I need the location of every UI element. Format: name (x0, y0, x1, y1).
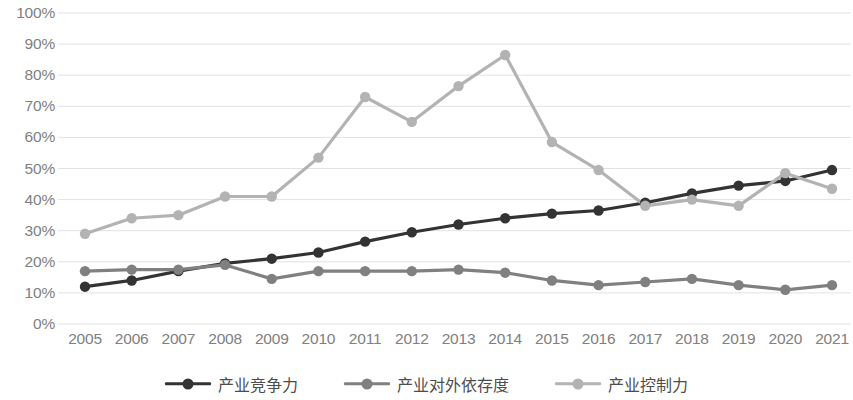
x-tick-label: 2013 (442, 330, 476, 348)
legend-label-series-1: 产业竞争力 (218, 372, 298, 396)
data-point (126, 213, 136, 223)
data-point (640, 201, 650, 211)
data-point (407, 227, 417, 237)
data-point (827, 165, 837, 175)
data-point (360, 92, 370, 102)
x-tick-label: 2020 (768, 330, 802, 348)
legend-swatch-icon-series-2 (344, 377, 390, 391)
data-point (407, 266, 417, 276)
data-point (453, 81, 463, 91)
x-tick-label: 2015 (535, 330, 569, 348)
x-tick-label: 2019 (722, 330, 756, 348)
data-point (313, 247, 323, 257)
data-point (827, 280, 837, 290)
x-tick-label: 2007 (162, 330, 196, 348)
line-chart: 100%90%80%70%60%50%40%30%20%10%0% 200520… (0, 0, 853, 400)
y-tick-label: 60% (3, 128, 55, 146)
data-point (593, 280, 603, 290)
data-point (80, 266, 90, 276)
legend-label-series-3: 产业控制力 (608, 372, 688, 396)
y-tick-label: 100% (3, 4, 55, 22)
data-point (640, 277, 650, 287)
data-point (220, 191, 230, 201)
data-point (733, 280, 743, 290)
data-point (547, 208, 557, 218)
x-tick-label: 2021 (815, 330, 849, 348)
y-tick-label: 90% (3, 35, 55, 53)
gridlines (58, 13, 851, 324)
data-point (500, 267, 510, 277)
x-tick-label: 2017 (628, 330, 662, 348)
y-tick-label: 50% (3, 160, 55, 178)
data-point (80, 281, 90, 291)
data-point (453, 219, 463, 229)
data-point (500, 50, 510, 60)
legend-swatch-icon-series-3 (555, 377, 601, 391)
data-point (360, 236, 370, 246)
data-point (733, 180, 743, 190)
data-point (780, 285, 790, 295)
data-point (687, 274, 697, 284)
data-point (687, 194, 697, 204)
series-points (80, 50, 837, 295)
data-point (407, 117, 417, 127)
x-tick-label: 2016 (582, 330, 616, 348)
chart-canvas (0, 0, 853, 340)
data-point (220, 260, 230, 270)
x-tick-label: 2008 (208, 330, 242, 348)
data-point (593, 165, 603, 175)
data-point (453, 264, 463, 274)
legend-label-series-2: 产业对外依存度 (397, 372, 509, 396)
x-tick-label: 2018 (675, 330, 709, 348)
data-point (780, 168, 790, 178)
x-tick-label: 2005 (68, 330, 102, 348)
data-point (360, 266, 370, 276)
x-tick-label: 2009 (255, 330, 289, 348)
data-point (126, 275, 136, 285)
y-tick-label: 40% (3, 191, 55, 209)
y-tick-label: 80% (3, 66, 55, 84)
x-tick-label: 2011 (349, 330, 382, 348)
data-point (827, 184, 837, 194)
data-point (267, 191, 277, 201)
data-point (80, 229, 90, 239)
y-tick-label: 30% (3, 222, 55, 240)
legend-item-series-3[interactable]: 产业控制力 (555, 372, 688, 396)
x-tick-label: 2010 (302, 330, 336, 348)
data-point (267, 253, 277, 263)
data-point (733, 201, 743, 211)
data-point (593, 205, 603, 215)
data-point (126, 264, 136, 274)
data-point (173, 264, 183, 274)
chart-legend: 产业竞争力 产业对外依存度 产业控制力 (0, 368, 853, 400)
data-point (500, 213, 510, 223)
data-point (173, 210, 183, 220)
legend-item-series-2[interactable]: 产业对外依存度 (344, 372, 509, 396)
data-point (267, 274, 277, 284)
x-tick-label: 2012 (395, 330, 429, 348)
data-point (547, 137, 557, 147)
y-axis: 100%90%80%70%60%50%40%30%20%10%0% (0, 0, 55, 340)
data-point (313, 152, 323, 162)
legend-item-series-1[interactable]: 产业竞争力 (165, 372, 298, 396)
data-point (313, 266, 323, 276)
x-tick-label: 2006 (115, 330, 149, 348)
plot-area (0, 0, 853, 340)
y-tick-label: 10% (3, 284, 55, 302)
x-axis: 2005200620072008200920102011201220132014… (0, 330, 853, 362)
data-point (547, 275, 557, 285)
x-tick-label: 2014 (488, 330, 522, 348)
y-tick-label: 20% (3, 253, 55, 271)
y-tick-label: 70% (3, 97, 55, 115)
legend-swatch-icon-series-1 (165, 377, 211, 391)
